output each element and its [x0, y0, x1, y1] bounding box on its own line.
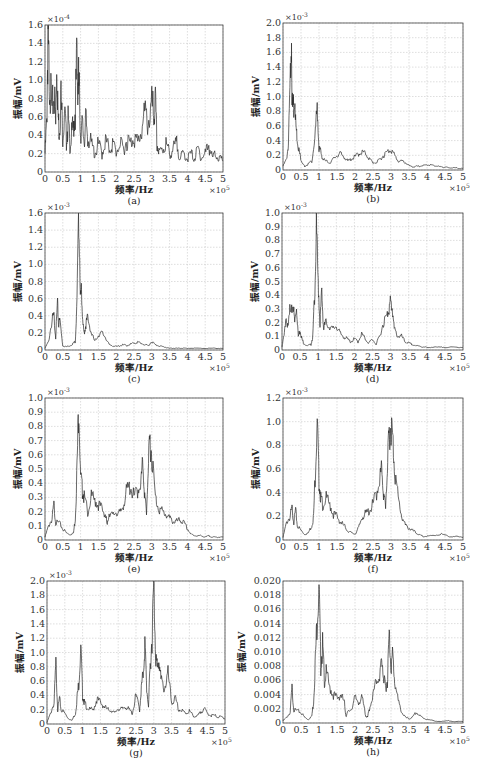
x-tick-label: 3 — [388, 724, 394, 735]
x-tick-label: 1.5 — [91, 351, 106, 362]
x-tick-label: 3.5 — [401, 541, 416, 552]
x-tick-label: 2.5 — [126, 351, 141, 362]
x-axis-label: 频率/Hz — [115, 362, 153, 373]
x-tick-label: 3 — [388, 171, 394, 182]
y-tick-label: 0.8 — [266, 439, 281, 450]
y-tick-label: 0 — [275, 717, 281, 728]
x-tick-label: 2.5 — [365, 171, 380, 182]
x-axis-label: 频率/Hz — [354, 735, 392, 746]
y-axis-label: 振幅/mV — [12, 77, 23, 119]
x-tick-label: 3 — [388, 351, 394, 362]
x-axis-label: 频率/Hz — [117, 736, 155, 747]
x-multiplier: ×105 — [449, 735, 470, 746]
grid — [283, 398, 463, 540]
subplot-a: 00.511.522.533.544.5500.20.40.60.81.01.2… — [12, 13, 230, 206]
x-tick-label: 2 — [115, 725, 121, 736]
x-tick-label: 1 — [78, 173, 84, 184]
y-tick-label: 0.2 — [28, 148, 43, 159]
x-tick-label: 5 — [222, 725, 228, 736]
x-tick-label: 3.5 — [162, 351, 177, 362]
x-tick-label: 1 — [78, 541, 84, 552]
subplot-caption: (h) — [366, 746, 380, 757]
y-tick-label: 0 — [275, 164, 281, 175]
subplot-caption: (f) — [368, 563, 379, 574]
x-multiplier: ×105 — [449, 362, 470, 373]
subplot-caption: (b) — [366, 193, 380, 204]
grid — [47, 581, 225, 724]
x-tick-label: 1 — [315, 351, 321, 362]
y-tick-label: 0.6 — [265, 262, 280, 273]
y-axis-label: 振幅/mV — [249, 260, 260, 302]
y-tick-label: 0.8 — [266, 105, 281, 116]
x-tick-label: 5 — [220, 351, 226, 362]
y-tick-label: 0.5 — [28, 463, 43, 474]
y-tick-label: 0.008 — [254, 660, 281, 671]
y-tick-label: 0.012 — [254, 632, 281, 643]
x-tick-label: 4.5 — [437, 351, 452, 362]
y-tick-label: 0.7 — [28, 435, 43, 446]
y-tick-label: 1.0 — [28, 74, 43, 85]
y-axis-label: 振幅/mV — [14, 631, 25, 673]
subplot-caption: (g) — [129, 747, 143, 758]
x-tick-label: 1 — [316, 541, 322, 552]
y-tick-label: 1.2 — [266, 392, 281, 403]
y-tick-label: 0 — [39, 718, 45, 729]
x-tick-label: 4.5 — [198, 541, 213, 552]
y-tick-label: 0.1 — [265, 330, 280, 341]
y-tick-label: 0.002 — [254, 703, 281, 714]
y-tick-label: 0.014 — [254, 618, 281, 629]
x-tick-label: 1.5 — [329, 724, 344, 735]
grid — [45, 398, 223, 540]
y-tick-label: 0.8 — [28, 93, 43, 104]
y-tick-label: 0.8 — [28, 276, 43, 287]
x-tick-label: 0.5 — [55, 351, 70, 362]
x-tick-label: 3.5 — [401, 171, 416, 182]
x-axis-label: 频率/Hz — [354, 362, 392, 373]
x-tick-label: 5 — [460, 541, 466, 552]
x-tick-label: 1.5 — [329, 351, 344, 362]
x-tick-label: 4 — [184, 541, 190, 552]
x-tick-label: 1 — [316, 171, 322, 182]
y-axis-label: 振幅/mV — [250, 448, 261, 490]
x-axis-label: 频率/Hz — [354, 552, 392, 563]
y-tick-label: 1.6 — [30, 604, 45, 615]
y-tick-label: 0.4 — [30, 689, 45, 700]
subplot-h: 00.511.522.533.544.5500.0020.0040.0060.0… — [236, 575, 470, 757]
x-tick-label: 1 — [316, 724, 322, 735]
x-tick-label: 4 — [424, 351, 430, 362]
grid — [283, 581, 463, 723]
y-tick-label: 0 — [37, 344, 43, 355]
y-tick-label: 1.2 — [30, 632, 45, 643]
x-tick-label: 4 — [186, 725, 192, 736]
x-axis-label: 频率/Hz — [115, 552, 153, 563]
grid — [282, 213, 463, 350]
x-tick-label: 5 — [460, 171, 466, 182]
x-tick-label: 5 — [460, 724, 466, 735]
x-tick-label: 3 — [149, 541, 155, 552]
y-tick-label: 0.7 — [265, 248, 280, 259]
y-axis-label: 振幅/mV — [250, 75, 261, 117]
x-multiplier: ×105 — [449, 552, 470, 563]
y-tick-label: 0.4 — [266, 135, 281, 146]
y-tick-label: 0 — [37, 166, 43, 177]
y-tick-label: 0.2 — [30, 704, 45, 715]
x-tick-label: 4.5 — [198, 351, 213, 362]
y-tick-label: 1.0 — [266, 91, 281, 102]
y-axis-label: 振幅/mV — [12, 448, 23, 490]
y-tick-label: 1.4 — [30, 618, 45, 629]
y-tick-label: 0.4 — [28, 310, 43, 321]
x-tick-label: 4 — [424, 724, 430, 735]
y-tick-label: 0.006 — [254, 674, 281, 685]
y-tick-label: 1.8 — [30, 589, 45, 600]
subplot-caption: (d) — [366, 373, 380, 384]
y-tick-label: 0.2 — [28, 506, 43, 517]
y-tick-label: 0 — [274, 344, 280, 355]
y-tick-label: 1.6 — [28, 207, 43, 218]
x-tick-label: 3.5 — [162, 173, 177, 184]
y-tick-label: 0.6 — [266, 120, 281, 131]
y-tick-label: 0.6 — [28, 449, 43, 460]
y-tick-label: 0.016 — [254, 603, 281, 614]
subplot-e: 00.511.522.533.544.5500.10.20.30.40.50.6… — [12, 386, 230, 574]
x-tick-label: 4.5 — [437, 724, 452, 735]
x-tick-label: 1 — [80, 725, 86, 736]
